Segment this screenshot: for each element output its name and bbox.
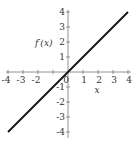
y-tick-label: -4	[56, 127, 65, 137]
x-tick-label: 2	[96, 75, 102, 85]
x-tick-label: 4	[126, 75, 132, 85]
y-tick-label: 4	[59, 7, 65, 17]
y-tick-label: -3	[56, 112, 65, 122]
x-tick-label: -2	[32, 75, 41, 85]
x-axis-label: x	[94, 85, 99, 95]
y-tick-label: 2	[59, 37, 65, 47]
y-tick-label: 1	[59, 52, 65, 62]
y-axis-label: f′(x)	[34, 38, 53, 48]
x-tick-label: 1	[81, 75, 87, 85]
x-tick-label: -4	[2, 75, 11, 85]
y-tick-label: 3	[59, 22, 65, 32]
x-tick-label: 3	[111, 75, 117, 85]
derivative-chart: -4 -3 -2 0 1 2 3 4 4 3 2 1 -1 -2 -3 -4 f…	[0, 0, 134, 150]
y-tick-label: -2	[56, 97, 65, 107]
x-tick-label: -3	[17, 75, 26, 85]
